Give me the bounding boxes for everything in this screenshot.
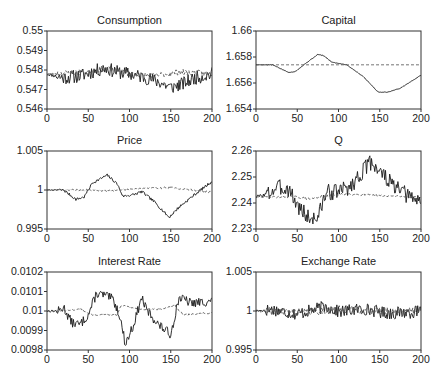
y-tick-label: 0.548 xyxy=(1,63,43,75)
x-tick-label: 0 xyxy=(32,353,62,365)
x-tick-label: 50 xyxy=(73,353,103,365)
x-tick-label: 150 xyxy=(156,353,186,365)
y-tick-label: 0.0102 xyxy=(1,265,43,277)
series-solid-line xyxy=(47,174,212,218)
y-tick-label: 2.24 xyxy=(210,196,252,208)
y-tick-label: 1 xyxy=(1,183,43,195)
series-dashed-line xyxy=(47,187,212,193)
y-tick-label: 1.658 xyxy=(210,50,252,62)
y-tick-label: 2.25 xyxy=(210,170,252,182)
y-tick-label: 0.0101 xyxy=(1,285,43,297)
plot-frame xyxy=(47,272,212,350)
y-tick-label: 0.55 xyxy=(1,24,43,36)
plot-frame xyxy=(256,31,421,109)
y-tick-label: 1.656 xyxy=(210,76,252,88)
y-tick-label: 1 xyxy=(210,304,252,316)
panel-capital: Capital 1.661.6581.6561.654050100150200 xyxy=(209,0,428,125)
series-dashed-line xyxy=(47,304,212,315)
series-solid-line xyxy=(47,64,212,93)
series-solid-line xyxy=(256,156,421,224)
y-tick-label: 0.549 xyxy=(1,44,43,56)
series-solid-line xyxy=(256,54,421,92)
panel-price: Price 1.00510.995050100150200 xyxy=(0,120,219,245)
x-tick-label: 200 xyxy=(406,353,436,365)
y-tick-label: 1.66 xyxy=(210,24,252,36)
x-tick-label: 150 xyxy=(365,353,395,365)
panel-q: Q 2.262.252.242.23050100150200 xyxy=(209,120,428,245)
series-solid-line xyxy=(256,301,421,319)
panel-interest-rate: Interest Rate 0.01020.01010.010.00990.00… xyxy=(0,241,219,366)
panel-exchange-rate: Exchange Rate 1.00510.995050100150200 xyxy=(209,241,428,366)
y-tick-label: 2.26 xyxy=(210,144,252,156)
y-tick-label: 0.01 xyxy=(1,304,43,316)
x-tick-label: 50 xyxy=(282,353,312,365)
series-solid-line xyxy=(47,291,212,345)
y-tick-label: 0.547 xyxy=(1,83,43,95)
y-tick-label: 1.005 xyxy=(1,144,43,156)
y-tick-label: 1.005 xyxy=(210,265,252,277)
x-tick-label: 100 xyxy=(324,353,354,365)
x-tick-label: 0 xyxy=(241,353,271,365)
x-tick-label: 100 xyxy=(115,353,145,365)
panel-consumption: Consumption 0.550.5490.5480.5470.5460501… xyxy=(0,0,219,125)
y-tick-label: 0.0099 xyxy=(1,324,43,336)
